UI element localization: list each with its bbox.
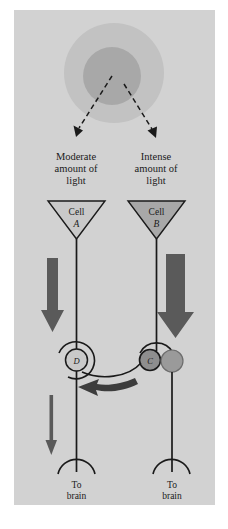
left-output-label-line-2: brain <box>67 491 87 501</box>
lateral-inhibition-diagram: Moderate amount of light Cell A D To bra… <box>0 0 228 529</box>
cell-b-word: Cell <box>149 207 165 217</box>
cell-a-word: Cell <box>69 207 85 217</box>
node-c-label: C <box>147 356 153 366</box>
left-stimulus-label-line-2: amount of <box>55 163 98 174</box>
left-stimulus-label-line-3: light <box>66 175 85 186</box>
right-output-label-line-2: brain <box>162 491 182 501</box>
cell-b-identifier: B <box>154 219 160 229</box>
right-output-label-line-1: To <box>167 480 177 490</box>
right-stimulus-label-line-2: amount of <box>135 163 178 174</box>
right-stimulus-label-line-3: light <box>146 175 165 186</box>
figure-root: Moderate amount of light Cell A D To bra… <box>0 0 228 529</box>
right-stimulus-label-line-1: Intense <box>141 151 172 162</box>
node-d-label: D <box>72 356 80 366</box>
inhibitory-terminal-bouton <box>161 350 183 372</box>
left-stimulus-label-line-1: Moderate <box>56 151 97 162</box>
cell-a-identifier: A <box>73 219 80 229</box>
left-output-label-line-1: To <box>72 480 82 490</box>
